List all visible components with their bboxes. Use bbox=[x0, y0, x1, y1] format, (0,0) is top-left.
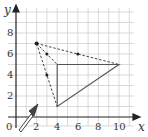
coordinate-diagram: y x 0 2 4 6 8 10 2 4 6 8 bbox=[0, 0, 148, 137]
y-tick-label: 2 bbox=[7, 90, 13, 101]
x-axis-label: x bbox=[138, 120, 145, 134]
x-tick-label: 4 bbox=[54, 121, 60, 132]
x-tick-label: 8 bbox=[95, 121, 101, 132]
midpoint-dot bbox=[45, 53, 48, 56]
y-tick-label: 4 bbox=[7, 69, 13, 80]
y-axis-arrow-icon bbox=[13, 5, 19, 12]
x-tick-label: 6 bbox=[75, 121, 81, 132]
x-tick-label: 2 bbox=[33, 121, 39, 132]
y-axis-label: y bbox=[3, 3, 11, 17]
origin-label: 0 bbox=[6, 121, 12, 132]
center-of-enlargement-point bbox=[35, 42, 39, 46]
midpoint-dot bbox=[76, 53, 79, 56]
x-tick-label: 10 bbox=[113, 121, 126, 132]
y-tick-label: 6 bbox=[7, 48, 13, 59]
y-tick-label: 8 bbox=[7, 27, 13, 38]
midpoint-dot bbox=[45, 74, 48, 77]
axes bbox=[8, 5, 140, 128]
